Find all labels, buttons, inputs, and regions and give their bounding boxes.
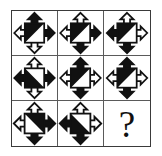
matrix-cell-1-2[interactable]: [58, 11, 104, 56]
matrix-grid: ?: [11, 10, 151, 147]
matrix-puzzle: ?: [0, 0, 162, 156]
matrix-cell-2-3[interactable]: [104, 56, 150, 101]
matrix-cell-3-1[interactable]: [12, 101, 58, 146]
arrow-square-figure: [12, 56, 57, 100]
matrix-cell-1-3[interactable]: [104, 11, 150, 56]
matrix-cell-3-2[interactable]: [58, 101, 104, 146]
matrix-cell-2-1[interactable]: [12, 56, 58, 101]
arrow-square-figure: [12, 11, 57, 55]
arrow-square-figure: [104, 56, 150, 100]
matrix-cell-1-1[interactable]: [12, 11, 58, 56]
arrow-square-figure: [12, 101, 57, 146]
arrow-square-figure: [58, 11, 103, 55]
arrow-square-figure: [104, 11, 150, 55]
arrow-square-figure: [58, 56, 103, 100]
arrow-square-figure: [58, 101, 103, 146]
missing-answer-question-mark: ?: [119, 106, 135, 143]
matrix-cell-3-3[interactable]: ?: [104, 101, 150, 146]
matrix-cell-2-2[interactable]: [58, 56, 104, 101]
